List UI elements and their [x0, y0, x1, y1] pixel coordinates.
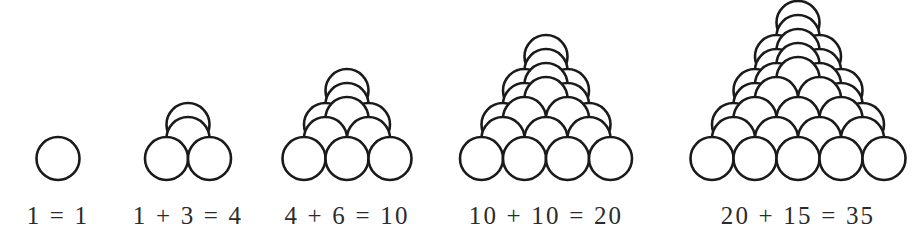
sphere — [326, 137, 369, 180]
sphere — [820, 137, 863, 180]
figure-board — [0, 0, 917, 237]
sphere — [734, 137, 777, 180]
sphere — [283, 137, 326, 180]
pile-1 — [37, 137, 80, 180]
sphere — [777, 137, 820, 180]
sphere — [460, 137, 503, 180]
sphere — [145, 137, 188, 180]
sphere — [369, 137, 412, 180]
pile-2 — [145, 103, 231, 180]
pile-5 — [691, 1, 906, 180]
sphere — [863, 137, 906, 180]
pile-3 — [283, 69, 412, 180]
sphere — [188, 137, 231, 180]
sphere — [503, 137, 546, 180]
sphere — [691, 137, 734, 180]
sphere — [37, 137, 80, 180]
sphere — [546, 137, 589, 180]
sphere — [589, 137, 632, 180]
pile-4 — [460, 35, 632, 180]
sphere-stack-canvas — [0, 0, 917, 237]
